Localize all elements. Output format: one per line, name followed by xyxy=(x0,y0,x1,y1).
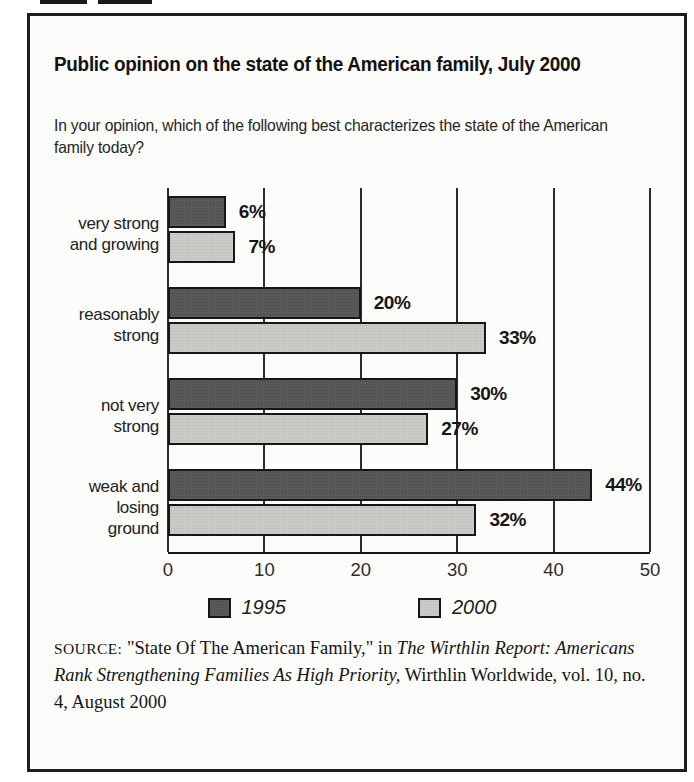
legend-swatch-1995 xyxy=(208,598,231,618)
page-crop-text-artifact xyxy=(40,0,152,4)
source-label: SOURCE: xyxy=(54,640,122,657)
x-tick-label-40: 40 xyxy=(543,559,564,581)
bar-row-1995: 6% xyxy=(168,196,650,228)
category-label: very strong and growing xyxy=(57,213,159,255)
figure-box: Public opinion on the state of the Ameri… xyxy=(27,13,687,772)
x-axis: 01020304050 xyxy=(168,554,650,580)
bar-value-label: 33% xyxy=(499,327,536,349)
bar-row-2000: 27% xyxy=(168,413,650,445)
category-label: weak and losing ground xyxy=(57,475,159,538)
bar-row-1995: 20% xyxy=(168,287,650,319)
bar-1995 xyxy=(168,378,457,410)
plot-area: very strong and growing6%7%reasonably st… xyxy=(168,188,650,554)
bar-value-label: 6% xyxy=(239,201,265,223)
bar-value-label: 20% xyxy=(374,292,411,314)
bar-2000 xyxy=(168,504,476,536)
x-tick-label-50: 50 xyxy=(640,559,661,581)
legend-swatch-2000 xyxy=(418,598,441,618)
x-tick-label-20: 20 xyxy=(351,559,372,581)
bar-1995 xyxy=(168,469,592,501)
bar-value-label: 7% xyxy=(248,236,274,258)
x-tick-label-30: 30 xyxy=(447,559,468,581)
legend-item-1995: 1995 xyxy=(208,596,287,619)
x-tick-label-0: 0 xyxy=(163,559,173,581)
bar-1995 xyxy=(168,287,361,319)
category-label: not very strong xyxy=(57,395,159,437)
x-tick-label-10: 10 xyxy=(254,559,275,581)
legend: 1995 2000 xyxy=(54,596,650,619)
bar-value-label: 27% xyxy=(441,418,478,440)
legend-label-2000: 2000 xyxy=(452,596,497,619)
figure-title: Public opinion on the state of the Ameri… xyxy=(54,52,655,76)
bar-group-3: weak and losing ground44%32% xyxy=(168,461,650,552)
source-text-roman-1: "State Of The American Family," in xyxy=(122,638,397,658)
bar-value-label: 30% xyxy=(470,383,507,405)
bar-1995 xyxy=(168,196,226,228)
source-citation: SOURCE: "State Of The American Family," … xyxy=(54,635,650,716)
bar-group-1: reasonably strong20%33% xyxy=(168,279,650,370)
bar-group-0: very strong and growing6%7% xyxy=(168,188,650,279)
bar-row-1995: 44% xyxy=(168,469,650,501)
bar-value-label: 32% xyxy=(489,509,526,531)
bar-2000 xyxy=(168,413,428,445)
bar-row-2000: 32% xyxy=(168,504,650,536)
category-label: reasonably strong xyxy=(57,304,159,346)
bar-value-label: 44% xyxy=(605,474,642,496)
bar-chart: very strong and growing6%7%reasonably st… xyxy=(54,188,650,580)
legend-label-1995: 1995 xyxy=(242,596,287,619)
bar-row-1995: 30% xyxy=(168,378,650,410)
bar-group-2: not very strong30%27% xyxy=(168,370,650,461)
bar-row-2000: 33% xyxy=(168,322,650,354)
legend-item-2000: 2000 xyxy=(418,596,497,619)
bar-row-2000: 7% xyxy=(168,231,650,263)
bar-2000 xyxy=(168,322,486,354)
bar-2000 xyxy=(168,231,235,263)
survey-question: In your opinion, which of the following … xyxy=(54,114,654,158)
